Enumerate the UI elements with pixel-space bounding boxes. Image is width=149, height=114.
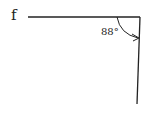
angle-label: 88° bbox=[101, 26, 119, 37]
angle-diagram bbox=[0, 0, 149, 114]
vertical-line bbox=[137, 17, 140, 104]
angle-arc bbox=[117, 17, 138, 38]
line-label-f: f bbox=[11, 6, 17, 24]
